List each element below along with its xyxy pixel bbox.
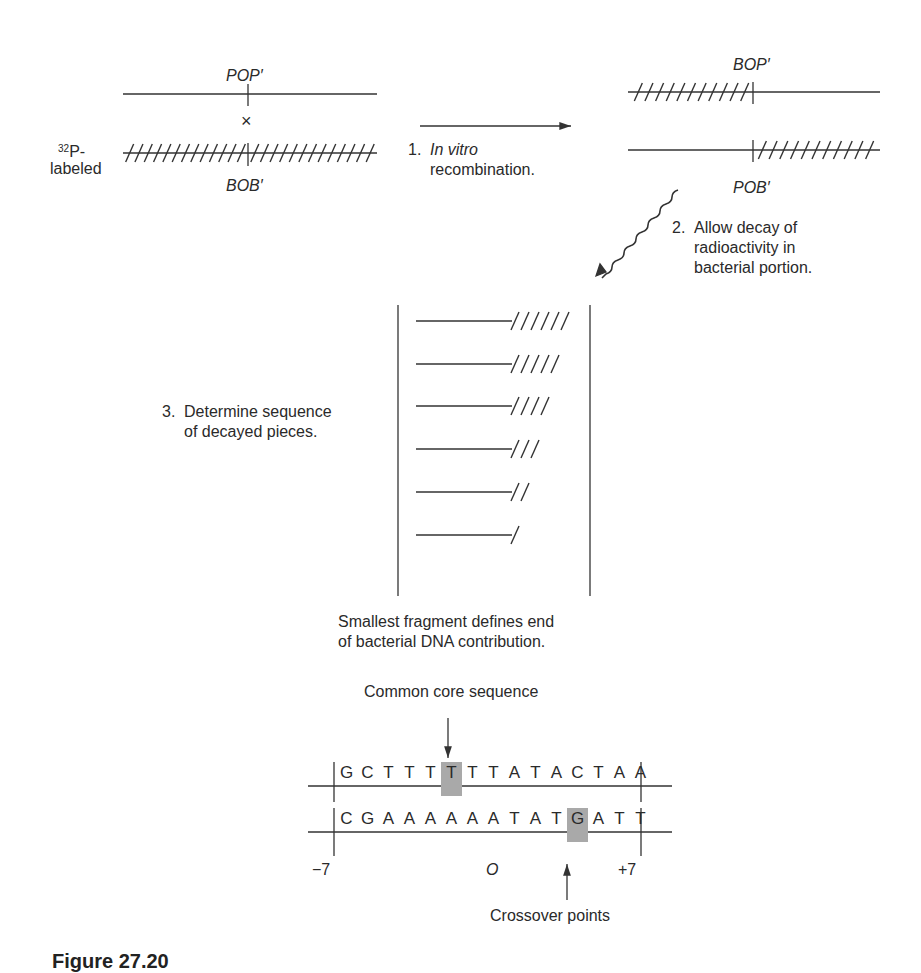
- nucleotide: T: [483, 762, 504, 784]
- pob-label: POB′: [733, 178, 770, 197]
- smallest-fragment-note: Smallest fragment defines end of bacteri…: [338, 612, 554, 652]
- nucleotide: T: [609, 808, 630, 830]
- nucleotide: C: [357, 762, 378, 784]
- nucleotide: T: [420, 762, 441, 784]
- step-1-text: 1.In vitro recombination.: [408, 140, 535, 180]
- nucleotide: G: [357, 808, 378, 830]
- nucleotide: A: [483, 808, 504, 830]
- nucleotide: T: [462, 762, 483, 784]
- decayed-fragment: [416, 440, 539, 458]
- nucleotide: A: [441, 808, 462, 830]
- nucleotide: T: [588, 762, 609, 784]
- nucleotide: A: [420, 808, 441, 830]
- nucleotide: T: [546, 808, 567, 830]
- common-core-title: Common core sequence: [364, 682, 538, 701]
- nucleotide: A: [525, 808, 546, 830]
- position-plus7: +7: [618, 860, 636, 879]
- nucleotide: A: [609, 762, 630, 784]
- nucleotide: G: [336, 762, 357, 784]
- top-strand-sequence: GCTTTTTTATACTAA: [336, 762, 651, 796]
- nucleotide: T: [630, 808, 651, 830]
- decayed-fragment: [416, 483, 529, 501]
- decay-wavy-arrow: [602, 190, 678, 278]
- nucleotide: T: [504, 808, 525, 830]
- nucleotide: G: [567, 808, 588, 842]
- crossover-x-symbol: ×: [241, 112, 252, 131]
- nucleotide: C: [336, 808, 357, 830]
- nucleotide: A: [588, 808, 609, 830]
- nucleotide: T: [441, 762, 462, 796]
- nucleotide: A: [462, 808, 483, 830]
- bob-label: BOB′: [226, 176, 263, 195]
- pob-hybrid-dna-line: [628, 140, 880, 162]
- nucleotide: T: [399, 762, 420, 784]
- nucleotide: A: [546, 762, 567, 784]
- nucleotide: T: [525, 762, 546, 784]
- bottom-strand-sequence: CGAAAAAATATGATT: [336, 808, 651, 842]
- nucleotide: A: [630, 762, 651, 784]
- nucleotide: A: [378, 808, 399, 830]
- decayed-fragment: [416, 355, 559, 373]
- step-2-text: 2.Allow decay of radioactivity in bacter…: [672, 218, 812, 278]
- pop-label: POP′: [226, 66, 263, 85]
- decayed-fragment: [416, 397, 549, 415]
- step-3-text: 3.Determine sequence of decayed pieces.: [162, 402, 332, 442]
- position-minus7: −7: [312, 860, 330, 879]
- figure-caption: Figure 27.20: [52, 950, 169, 973]
- radiolabel-label: 32P-: [58, 139, 85, 161]
- nucleotide: A: [504, 762, 525, 784]
- bop-label: BOP′: [733, 55, 770, 74]
- position-center: O: [486, 860, 498, 879]
- decayed-fragment: [416, 526, 519, 544]
- decayed-fragment: [416, 312, 569, 330]
- radiolabel-label-2: labeled: [50, 159, 102, 178]
- nucleotide: A: [399, 808, 420, 830]
- nucleotide: T: [378, 762, 399, 784]
- pop-phage-dna-line: [123, 84, 377, 106]
- nucleotide: C: [567, 762, 588, 784]
- crossover-points-label: Crossover points: [490, 906, 610, 925]
